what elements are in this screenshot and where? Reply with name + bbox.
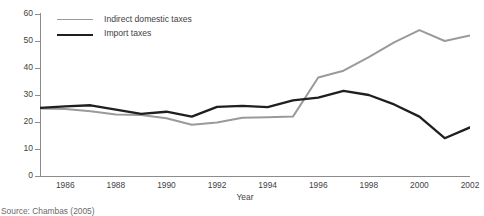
y-tick-label: 20 xyxy=(7,117,33,126)
y-tick-label: 40 xyxy=(7,63,33,72)
legend-line-swatch-gray xyxy=(57,19,93,20)
x-tick-label: 1990 xyxy=(146,180,186,190)
legend-label: Import taxes xyxy=(104,27,151,40)
x-tick-label: 1986 xyxy=(45,180,85,190)
y-tick-label: 30 xyxy=(7,90,33,99)
x-axis-title: Year xyxy=(237,192,254,202)
chart-legend: Indirect domestic taxes Import taxes xyxy=(57,13,247,41)
x-tick-label: 2000 xyxy=(399,180,439,190)
y-tick-label-holder: 50 xyxy=(2,36,33,46)
x-axis-line xyxy=(40,176,470,177)
x-tick-label: 1994 xyxy=(248,180,288,190)
y-tick-label-holder: 0 xyxy=(2,171,33,181)
y-tick-label: 10 xyxy=(7,144,33,153)
legend-item-indirect-domestic-taxes: Indirect domestic taxes xyxy=(57,13,247,27)
y-tick-label-holder: 20 xyxy=(2,117,33,127)
x-tick-label: 1996 xyxy=(298,180,338,190)
source-note: Source: Chambas (2005) xyxy=(1,206,95,216)
x-tick-label: 2002 xyxy=(450,180,484,190)
y-tick-label-holder: 40 xyxy=(2,63,33,73)
legend-line-swatch-black xyxy=(57,34,93,36)
y-tick-label: 0 xyxy=(7,171,33,180)
x-tick-label: 1988 xyxy=(96,180,136,190)
y-tick-label-holder: 30 xyxy=(2,90,33,100)
y-tick-label: 60 xyxy=(7,9,33,18)
y-tick-label-holder: 10 xyxy=(2,144,33,154)
legend-label: Indirect domestic taxes xyxy=(104,13,192,26)
x-axis-title-container: Year xyxy=(0,192,476,202)
y-tick-mark xyxy=(35,176,40,177)
y-tick-label: 50 xyxy=(7,36,33,45)
line-series xyxy=(40,91,470,138)
y-tick-label-holder: 60 xyxy=(2,9,33,19)
x-tick-label: 1998 xyxy=(349,180,389,190)
legend-item-import-taxes: Import taxes xyxy=(57,27,247,41)
x-tick-label: 1992 xyxy=(197,180,237,190)
